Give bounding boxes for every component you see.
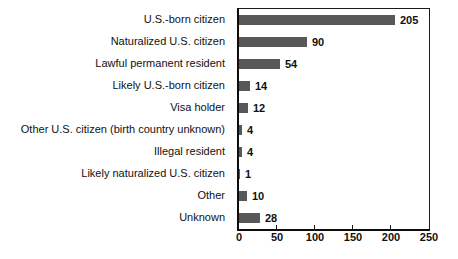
category-label: Likely naturalized U.S. citizen <box>0 162 231 184</box>
category-label: Other U.S. citizen (birth country unknow… <box>0 118 231 140</box>
bar-value-label: 10 <box>252 185 264 207</box>
x-axis-tick-mark <box>314 225 315 229</box>
bar-value-label: 90 <box>312 31 324 53</box>
bar <box>239 15 395 25</box>
bar-row: 14 <box>239 75 429 97</box>
bar-value-label: 14 <box>255 75 267 97</box>
x-axis-tick-mark <box>352 225 353 229</box>
x-axis-tick-mark <box>390 225 391 229</box>
bar-row: 1 <box>239 163 429 185</box>
bar-row: 90 <box>239 31 429 53</box>
bar-value-label: 4 <box>247 141 253 163</box>
x-axis-tick-mark <box>276 225 277 229</box>
bar-row: 205 <box>239 9 429 31</box>
bar <box>239 59 280 69</box>
category-label: Naturalized U.S. citizen <box>0 30 231 52</box>
bar <box>239 125 242 135</box>
category-label: Likely U.S.-born citizen <box>0 74 231 96</box>
bar-row: 28 <box>239 207 429 229</box>
bar <box>239 147 242 157</box>
bar <box>239 169 240 179</box>
plot-area: 205905414124411028 <box>237 8 430 231</box>
x-axis-tick-label: 50 <box>271 231 283 243</box>
bar <box>239 37 307 47</box>
category-label: U.S.-born citizen <box>0 8 231 30</box>
bar <box>239 213 260 223</box>
category-label: Other <box>0 184 231 206</box>
category-label: Unknown <box>0 206 231 228</box>
category-label: Illegal resident <box>0 140 231 162</box>
bar-value-label: 12 <box>253 97 265 119</box>
x-axis-tick-label: 200 <box>382 231 400 243</box>
bar-row: 12 <box>239 97 429 119</box>
citizenship-bar-chart: U.S.-born citizenNaturalized U.S. citize… <box>0 0 458 259</box>
x-axis-tick-label: 100 <box>306 231 324 243</box>
bar-value-label: 1 <box>245 163 251 185</box>
bar-row: 54 <box>239 53 429 75</box>
bar-value-label: 54 <box>285 53 297 75</box>
bar <box>239 81 250 91</box>
bar-row: 4 <box>239 141 429 163</box>
category-label: Lawful permanent resident <box>0 52 231 74</box>
x-axis-tick-label: 150 <box>344 231 362 243</box>
bar <box>239 103 248 113</box>
x-axis-tick-labels: 050100150200250 <box>239 231 429 247</box>
bar-value-label: 4 <box>247 119 253 141</box>
x-axis-tick-label: 250 <box>420 231 438 243</box>
bar-value-label: 205 <box>400 9 418 31</box>
bar-row: 10 <box>239 185 429 207</box>
category-axis-labels: U.S.-born citizenNaturalized U.S. citize… <box>0 8 231 228</box>
bar-row: 4 <box>239 119 429 141</box>
bar <box>239 191 247 201</box>
x-axis-tick-label: 0 <box>236 231 242 243</box>
category-label: Visa holder <box>0 96 231 118</box>
